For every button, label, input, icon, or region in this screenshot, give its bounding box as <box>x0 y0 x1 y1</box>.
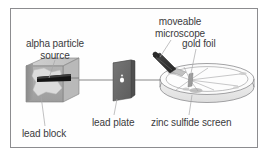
label-lead-block: lead block <box>22 128 66 140</box>
microscope-shape <box>152 51 186 76</box>
label-lead-plate: lead plate <box>92 117 134 129</box>
label-zinc-sulfide-screen: zinc sulfide screen <box>151 117 231 129</box>
label-moveable-microscope: moveable microscope <box>147 16 213 39</box>
lead-block-shape <box>26 58 79 102</box>
label-moveable-microscope-line1: moveable <box>147 16 213 28</box>
leader-lead-plate <box>114 99 117 115</box>
diagram-page: alpha particle source moveable microscop… <box>0 0 269 159</box>
label-gold-foil: gold foil <box>182 38 216 50</box>
lead-plate-shape <box>113 60 135 101</box>
label-alpha-particle-source-line2: source <box>16 50 94 62</box>
label-alpha-particle-source-line1: alpha particle <box>16 38 94 50</box>
leader-microscope <box>160 40 171 57</box>
label-alpha-particle-source: alpha particle source <box>16 38 94 61</box>
